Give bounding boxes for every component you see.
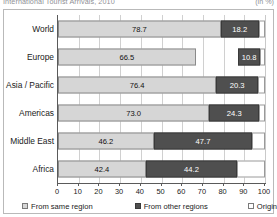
category-label: Americas <box>19 108 54 118</box>
bar-row: Africa42.444.2 <box>58 155 265 183</box>
gridline <box>265 15 266 183</box>
category-label: Africa <box>33 164 54 174</box>
bar-value-label: 24.3 <box>227 109 242 117</box>
bar-track: 46.247.7 <box>58 133 265 150</box>
x-tick-label: 40 <box>136 187 144 196</box>
bar-segment-origin-not-specified[interactable] <box>259 21 265 38</box>
legend-swatch-icon <box>248 203 254 209</box>
x-tick-mark <box>202 183 203 186</box>
bar-segment-same-region[interactable]: 46.2 <box>58 133 154 150</box>
bar-segment-origin-not-specified[interactable] <box>260 49 265 66</box>
x-tick-label: 10 <box>74 187 82 196</box>
chart-unit-label: (in %) <box>255 0 274 6</box>
x-tick-mark <box>264 183 265 186</box>
x-tick-mark <box>243 183 244 186</box>
chart-title: International Tourist Arrivals, 2010 <box>3 0 115 6</box>
legend-item-unspec[interactable]: Origin not specified <box>248 202 277 211</box>
bar-value-label: 76.4 <box>130 81 145 89</box>
bar-segment-other-regions[interactable]: 18.2 <box>221 21 259 38</box>
bar-value-label: 66.5 <box>119 53 134 61</box>
plot-area: World78.718.2Europe66.510.8Asia / Pacifi… <box>57 15 266 183</box>
legend-label: From other regions <box>144 202 208 211</box>
x-tick-mark <box>140 183 141 186</box>
bar-segment-origin-not-specified[interactable] <box>237 161 265 178</box>
bar-row: Europe66.510.8 <box>58 43 265 71</box>
bar-track: 66.510.8 <box>58 49 265 66</box>
legend-label: Origin not specified <box>257 202 277 211</box>
bar-value-label: 78.7 <box>132 25 147 33</box>
x-tick-label: 60 <box>177 187 185 196</box>
bar-value-label: 44.2 <box>184 165 199 173</box>
category-label: World <box>32 24 54 34</box>
chart-legend: From same regionFrom other regionsOrigin… <box>8 200 270 212</box>
bar-segment-other-regions[interactable]: 10.8 <box>238 49 260 66</box>
bar-value-label: 73.0 <box>126 109 141 117</box>
legend-swatch-icon <box>22 203 28 209</box>
category-label: Europe <box>27 52 54 62</box>
bar-segment-same-region[interactable]: 66.5 <box>58 49 196 66</box>
x-tick-label: 80 <box>218 187 226 196</box>
bar-segment-other-regions[interactable]: 47.7 <box>154 133 253 150</box>
bar-segment-other-regions[interactable]: 20.3 <box>216 77 258 94</box>
bar-segment-other-regions[interactable]: 24.3 <box>209 105 259 122</box>
x-tick-mark <box>223 183 224 186</box>
bar-segment-other-regions[interactable]: 44.2 <box>146 161 237 178</box>
x-axis-line <box>57 183 266 184</box>
x-tick-label: 30 <box>115 187 123 196</box>
x-tick-mark <box>78 183 79 186</box>
bar-segment-origin-not-specified[interactable] <box>258 77 265 94</box>
bar-track: 73.024.3 <box>58 105 265 122</box>
x-tick-mark <box>57 183 58 186</box>
x-tick-label: 100 <box>258 187 270 196</box>
x-tick-mark <box>161 183 162 186</box>
x-tick-label: 90 <box>239 187 247 196</box>
bar-value-label: 10.8 <box>242 53 257 61</box>
x-tick-mark <box>181 183 182 186</box>
x-tick-label: 70 <box>198 187 206 196</box>
legend-item-same[interactable]: From same region <box>22 202 93 211</box>
bar-segment-same-region[interactable]: 73.0 <box>58 105 209 122</box>
chart-frame: World78.718.2Europe66.510.8Asia / Pacifi… <box>3 9 274 214</box>
legend-label: From same region <box>31 202 93 211</box>
bar-segment-same-region[interactable]: 42.4 <box>58 161 146 178</box>
x-tick-label: 50 <box>156 187 164 196</box>
chart-title-strip: International Tourist Arrivals, 2010 (in… <box>0 0 277 9</box>
bar-value-label: 47.7 <box>196 137 211 145</box>
bar-value-label: 18.2 <box>232 25 247 33</box>
legend-item-other[interactable]: From other regions <box>135 202 208 211</box>
bar-segment-same-region[interactable]: 78.7 <box>58 21 221 38</box>
bar-track: 76.420.3 <box>58 77 265 94</box>
bar-track: 78.718.2 <box>58 21 265 38</box>
bar-row: Middle East46.247.7 <box>58 127 265 155</box>
x-tick-label: 0 <box>55 187 59 196</box>
legend-swatch-icon <box>135 203 141 209</box>
category-label: Asia / Pacific <box>6 80 54 90</box>
x-tick-label: 20 <box>94 187 102 196</box>
bar-value-label: 46.2 <box>98 137 113 145</box>
bar-value-label: 42.4 <box>94 165 109 173</box>
bar-value-label: 20.3 <box>230 81 245 89</box>
x-tick-mark <box>119 183 120 186</box>
bar-segment-origin-not-specified[interactable] <box>259 105 265 122</box>
bar-segment-same-region[interactable]: 76.4 <box>58 77 216 94</box>
bar-row: World78.718.2 <box>58 15 265 43</box>
bar-row: Asia / Pacific76.420.3 <box>58 71 265 99</box>
bar-segment-origin-not-specified[interactable] <box>252 133 265 150</box>
bar-row: Americas73.024.3 <box>58 99 265 127</box>
category-label: Middle East <box>10 136 54 146</box>
bar-track: 42.444.2 <box>58 161 265 178</box>
x-tick-mark <box>98 183 99 186</box>
x-axis: 0102030405060708090100 <box>57 183 266 199</box>
